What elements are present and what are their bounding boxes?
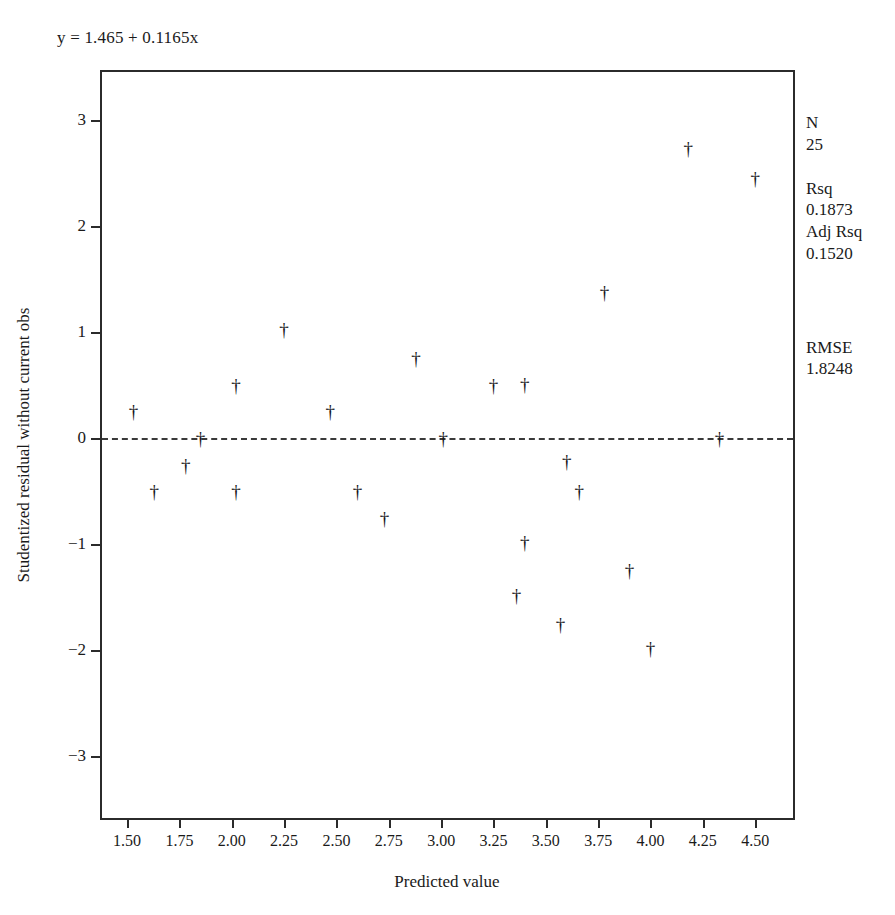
x-tick-mark (441, 818, 443, 828)
data-point-marker: † (380, 508, 390, 527)
x-tick-label: 3.50 (532, 832, 560, 850)
stat-adj-rsq-label: Adj Rsq (806, 221, 891, 243)
x-tick-label: 2.75 (375, 832, 403, 850)
chart-canvas: y = 1.465 + 0.1165x 3210−1−2−3 1.501.752… (0, 0, 895, 915)
x-tick-mark (336, 818, 338, 828)
data-point-marker: † (575, 482, 585, 501)
stat-rmse-value: 1.8248 (806, 358, 891, 380)
data-point-marker: † (520, 532, 530, 551)
statistics-panel: N 25 Rsq 0.1873 Adj Rsq 0.1520 RMSE 1.82… (806, 112, 891, 380)
stat-rsq-value: 0.1873 (806, 199, 891, 221)
data-point-marker: † (231, 375, 241, 394)
x-tick-label: 4.25 (689, 832, 717, 850)
data-point-marker: † (129, 402, 139, 421)
data-point-marker: † (750, 169, 760, 188)
x-tick-mark (179, 818, 181, 828)
x-tick-label: 2.25 (270, 832, 298, 850)
data-point-marker: † (196, 428, 206, 447)
data-point-marker: † (715, 428, 725, 447)
plot-area: 3210−1−2−3 1.501.752.002.252.502.753.003… (100, 70, 795, 820)
y-tick-label: 0 (78, 428, 87, 448)
x-tick-label: 2.00 (218, 832, 246, 850)
data-point-marker: † (489, 375, 499, 394)
x-tick-mark (546, 818, 548, 828)
data-point-marker: † (600, 282, 610, 301)
data-point-marker: † (325, 402, 335, 421)
y-axis-title: Studentized residual without current obs (14, 308, 34, 583)
x-tick-mark (598, 818, 600, 828)
x-tick-label: 1.75 (165, 832, 193, 850)
regression-equation-label: y = 1.465 + 0.1165x (57, 28, 198, 48)
data-point-marker: † (683, 139, 693, 158)
x-axis-title: Predicted value (394, 872, 499, 892)
data-point-marker: † (512, 585, 522, 604)
x-tick-label: 1.50 (113, 832, 141, 850)
y-tick-mark (91, 544, 102, 546)
x-tick-label: 3.00 (427, 832, 455, 850)
y-tick-label: −3 (68, 746, 86, 766)
y-tick-mark (91, 120, 102, 122)
y-tick-label: −2 (68, 640, 86, 660)
x-tick-label: 2.50 (322, 832, 350, 850)
stat-rmse-label: RMSE (806, 337, 891, 359)
x-tick-label: 4.00 (636, 832, 664, 850)
data-point-marker: † (353, 482, 363, 501)
data-point-marker: † (556, 614, 566, 633)
data-point-marker: † (438, 428, 448, 447)
x-tick-label: 4.50 (741, 832, 769, 850)
x-tick-mark (232, 818, 234, 828)
data-point-marker: † (279, 319, 289, 338)
data-point-marker: † (625, 560, 635, 579)
stat-adj-rsq-value: 0.1520 (806, 243, 891, 265)
y-tick-mark (91, 650, 102, 652)
data-point-marker: † (411, 349, 421, 368)
stat-n-value: 25 (806, 134, 891, 156)
x-tick-mark (755, 818, 757, 828)
data-point-marker: † (181, 455, 191, 474)
y-tick-label: 3 (78, 110, 87, 130)
x-tick-label: 3.75 (584, 832, 612, 850)
x-tick-mark (650, 818, 652, 828)
x-tick-mark (703, 818, 705, 828)
data-point-marker: † (150, 482, 160, 501)
y-tick-mark (91, 438, 102, 440)
data-point-marker: † (646, 639, 656, 658)
x-tick-label: 3.25 (479, 832, 507, 850)
data-point-marker: † (562, 452, 572, 471)
x-tick-mark (389, 818, 391, 828)
x-tick-mark (127, 818, 129, 828)
y-tick-mark (91, 756, 102, 758)
y-tick-mark (91, 332, 102, 334)
x-tick-mark (284, 818, 286, 828)
stat-rsq-label: Rsq (806, 178, 891, 200)
stat-n-label: N (806, 112, 891, 134)
data-point-marker: † (231, 482, 241, 501)
data-point-marker: † (520, 374, 530, 393)
y-tick-label: 1 (78, 322, 87, 342)
y-tick-label: −1 (68, 534, 86, 554)
x-tick-mark (493, 818, 495, 828)
y-tick-label: 2 (78, 216, 87, 236)
y-tick-mark (91, 226, 102, 228)
